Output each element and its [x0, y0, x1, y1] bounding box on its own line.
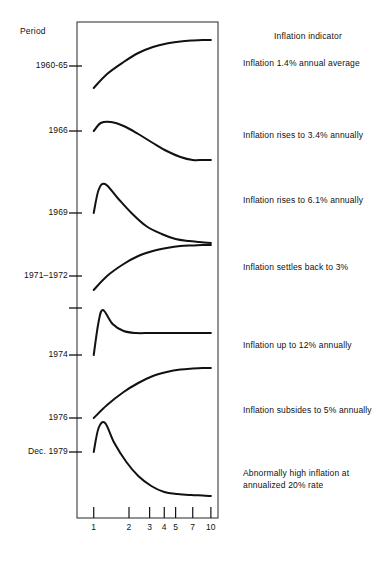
indicator-text-1960-65: Inflation 1.4% annual average [243, 58, 360, 70]
x-axis-tick-label: 5 [173, 522, 178, 532]
indicator-text-1971-1972: Inflation settles back to 3% [243, 262, 348, 274]
indicator-text-dec-1979: Abnormally high inflation at annualized … [243, 468, 349, 491]
x-axis-tick-label: 10 [206, 522, 216, 532]
inflation-indicator-descriptions: Inflation 1.4% annual averageInflation r… [243, 0, 387, 561]
x-axis-tick-label: 4 [162, 522, 167, 532]
x-axis-tick-label: 3 [147, 522, 152, 532]
indicator-text-1966: Inflation rises to 3.4% annually [243, 130, 363, 142]
x-axis-tick-label: 2 [127, 522, 132, 532]
x-axis-tick-label: 1 [91, 522, 96, 532]
indicator-text-1974: Inflation up to 12% annually [243, 340, 352, 352]
inflation-period-figure: Period Inflation indicator 1960-65196619… [0, 0, 387, 561]
indicator-text-1969: Inflation rises to 6.1% annually [243, 195, 363, 207]
x-axis-tick-label: 7 [190, 522, 195, 532]
indicator-text-1976: Inflation subsides to 5% annually [243, 405, 372, 417]
